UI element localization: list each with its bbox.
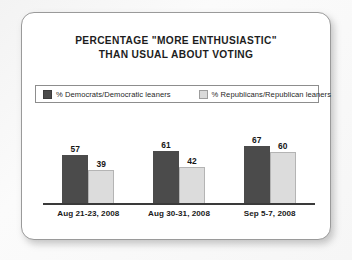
x-axis-label: Aug 21-23, 2008 bbox=[43, 209, 134, 218]
legend-label-democrats: % Democrats/Democratic leaners bbox=[56, 90, 171, 99]
bar-column: 67 bbox=[244, 146, 270, 203]
legend-item-democrats: % Democrats/Democratic leaners bbox=[43, 90, 171, 99]
legend-item-republicans: % Republicans/Republican leaners bbox=[199, 90, 331, 99]
bar-group: 6760 bbox=[224, 123, 315, 203]
bar-value-label: 60 bbox=[270, 141, 296, 151]
bar-column: 60 bbox=[270, 152, 296, 203]
chart-title-line-1: PERCENTAGE "MORE ENTHUSIASTIC" bbox=[22, 34, 330, 48]
bar-groups: 573961426760 bbox=[43, 123, 315, 203]
chart-page: PERCENTAGE "MORE ENTHUSIASTIC" THAN USUA… bbox=[0, 0, 352, 260]
chart-legend: % Democrats/Democratic leaners % Republi… bbox=[35, 85, 319, 103]
bar-column: 39 bbox=[88, 170, 114, 203]
bar-democrats[interactable] bbox=[62, 155, 88, 203]
x-axis-line bbox=[43, 203, 315, 205]
bar-value-label: 67 bbox=[244, 135, 270, 145]
chart-card: PERCENTAGE "MORE ENTHUSIASTIC" THAN USUA… bbox=[21, 12, 331, 240]
bar-column: 57 bbox=[62, 155, 88, 203]
bar-pair: 6142 bbox=[153, 151, 205, 203]
bar-republicans[interactable] bbox=[88, 170, 114, 203]
chart-title: PERCENTAGE "MORE ENTHUSIASTIC" THAN USUA… bbox=[22, 34, 330, 61]
plot-area: 573961426760 bbox=[43, 123, 315, 205]
bar-value-label: 42 bbox=[179, 156, 205, 166]
bar-column: 61 bbox=[153, 151, 179, 203]
bar-group: 5739 bbox=[43, 123, 134, 203]
bar-value-label: 39 bbox=[88, 159, 114, 169]
bar-republicans[interactable] bbox=[270, 152, 296, 203]
bar-democrats[interactable] bbox=[244, 146, 270, 203]
x-axis-label: Aug 30-31, 2008 bbox=[134, 209, 225, 218]
x-axis-labels: Aug 21-23, 2008Aug 30-31, 2008Sep 5-7, 2… bbox=[43, 209, 315, 218]
bar-democrats[interactable] bbox=[153, 151, 179, 203]
bar-column: 42 bbox=[179, 167, 205, 203]
x-axis-label: Sep 5-7, 2008 bbox=[224, 209, 315, 218]
bar-value-label: 61 bbox=[153, 140, 179, 150]
legend-label-republicans: % Republicans/Republican leaners bbox=[212, 90, 331, 99]
dark-swatch-icon bbox=[43, 90, 52, 99]
chart-title-line-2: THAN USUAL ABOUT VOTING bbox=[22, 48, 330, 62]
bar-value-label: 57 bbox=[62, 144, 88, 154]
bar-pair: 5739 bbox=[62, 155, 114, 203]
bar-republicans[interactable] bbox=[179, 167, 205, 203]
light-swatch-icon bbox=[199, 90, 208, 99]
bar-pair: 6760 bbox=[244, 146, 296, 203]
bar-group: 6142 bbox=[134, 123, 225, 203]
